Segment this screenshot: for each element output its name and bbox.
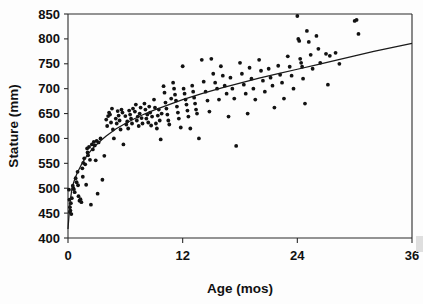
data-point — [259, 69, 263, 73]
data-point — [127, 109, 131, 113]
data-point — [324, 52, 328, 56]
data-point — [144, 108, 148, 112]
data-point — [117, 114, 121, 118]
scatter-plot-figure: 400450500550600650700750800850 0122436 S… — [0, 0, 423, 304]
data-point — [133, 110, 137, 114]
data-point — [121, 111, 125, 115]
y-tick-label: 800 — [38, 31, 60, 46]
data-point — [246, 112, 250, 116]
data-point — [155, 127, 159, 131]
data-point — [211, 72, 215, 76]
data-point — [179, 126, 183, 130]
data-point — [160, 112, 164, 116]
data-point — [108, 113, 112, 117]
data-point — [126, 127, 130, 131]
data-point — [213, 81, 217, 85]
data-point — [209, 57, 213, 61]
axis-group — [68, 14, 412, 238]
data-point — [165, 113, 169, 117]
data-point — [94, 158, 98, 162]
data-point — [197, 137, 201, 141]
y-tick-label: 650 — [38, 106, 60, 121]
x-tick-group — [68, 238, 412, 243]
data-point — [261, 79, 265, 83]
data-point — [276, 64, 280, 68]
data-point — [299, 61, 303, 65]
data-point — [194, 108, 198, 112]
data-point — [110, 107, 114, 111]
chart-canvas: 400450500550600650700750800850 0122436 S… — [0, 0, 423, 304]
y-tick-label: 500 — [38, 181, 60, 196]
data-point — [337, 62, 341, 66]
data-point — [309, 53, 313, 57]
fit-curve-path — [68, 43, 412, 229]
data-point — [301, 77, 305, 81]
data-point — [244, 92, 248, 96]
x-tick-label-group: 0122436 — [64, 248, 419, 263]
data-point — [141, 122, 145, 126]
y-tick-group — [64, 14, 68, 238]
data-point — [326, 83, 330, 87]
y-tick-label: 600 — [38, 131, 60, 146]
data-point — [89, 203, 93, 207]
data-point — [240, 72, 244, 76]
data-point — [164, 101, 168, 105]
data-point — [158, 119, 162, 123]
data-point — [118, 119, 122, 123]
data-point — [162, 84, 166, 88]
data-point — [143, 102, 147, 106]
data-point — [315, 34, 319, 38]
data-point — [119, 128, 123, 132]
data-point — [128, 113, 132, 117]
data-point — [138, 112, 142, 116]
data-point — [206, 99, 210, 103]
data-point — [165, 107, 169, 111]
data-point — [225, 92, 229, 96]
data-point — [159, 138, 163, 142]
data-point — [176, 111, 180, 115]
data-point — [181, 64, 185, 68]
data-point — [102, 154, 106, 158]
data-point — [238, 61, 242, 65]
data-point — [328, 54, 332, 58]
data-point — [288, 65, 292, 69]
data-point — [290, 74, 294, 78]
data-point — [355, 18, 359, 22]
data-point — [297, 39, 301, 43]
data-point — [221, 74, 225, 78]
data-point — [112, 137, 116, 141]
data-point — [175, 105, 179, 109]
data-point — [286, 54, 290, 58]
data-point — [154, 122, 158, 126]
data-point — [208, 110, 212, 114]
y-tick-label: 400 — [38, 231, 60, 246]
data-point — [282, 97, 286, 101]
data-point — [84, 183, 88, 187]
data-point — [305, 29, 309, 33]
data-point — [316, 47, 320, 51]
data-point — [122, 143, 126, 147]
data-point — [177, 117, 181, 121]
data-point — [280, 81, 284, 85]
data-point — [267, 67, 271, 71]
x-tick-label: 0 — [64, 248, 71, 263]
data-point — [219, 64, 223, 68]
data-point — [139, 106, 143, 110]
data-point — [101, 178, 105, 182]
data-point — [114, 117, 118, 121]
data-point — [173, 93, 177, 97]
data-point-group — [67, 14, 360, 216]
data-point — [186, 109, 190, 113]
data-point — [167, 123, 171, 127]
data-point — [248, 66, 252, 70]
data-point — [303, 102, 307, 106]
data-point — [188, 127, 192, 131]
data-point — [79, 200, 83, 204]
data-point — [357, 32, 361, 36]
data-point — [163, 91, 167, 95]
data-point — [298, 57, 302, 61]
data-point — [169, 97, 173, 101]
y-tick-label: 700 — [38, 81, 60, 96]
y-tick-label: 450 — [38, 206, 60, 221]
data-point — [149, 124, 153, 128]
